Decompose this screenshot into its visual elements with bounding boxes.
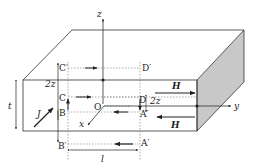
label-a-inner: A′ xyxy=(139,109,149,119)
label-2z-left: 2z xyxy=(44,79,56,89)
y-axis-label: y xyxy=(233,101,240,111)
label-field-bottom: H xyxy=(170,120,180,130)
origin-dot-side xyxy=(195,104,198,107)
label-thickness: t xyxy=(8,101,12,111)
slab-diagram: z y x O C′ D′ C D B A′ B′ A′ 2z 2z t l J… xyxy=(0,0,255,166)
label-b-prime: B′ xyxy=(58,141,67,151)
label-length: l xyxy=(101,154,104,164)
label-field-top: H xyxy=(171,81,181,91)
label-2z-right: 2z xyxy=(149,96,161,106)
origin-dot-top xyxy=(101,78,104,81)
label-c: C xyxy=(59,93,66,103)
label-c-prime: C′ xyxy=(59,63,68,73)
label-d-prime: D′ xyxy=(142,63,151,73)
label-current-density: J xyxy=(35,109,42,119)
z-axis-label: z xyxy=(96,9,102,19)
dashed-guides xyxy=(68,62,197,160)
origin-label: O xyxy=(94,102,101,112)
label-b: B xyxy=(59,108,66,118)
label-a-prime: A′ xyxy=(140,138,150,148)
x-axis-label: x xyxy=(79,119,84,129)
slab-side-face xyxy=(197,30,244,131)
